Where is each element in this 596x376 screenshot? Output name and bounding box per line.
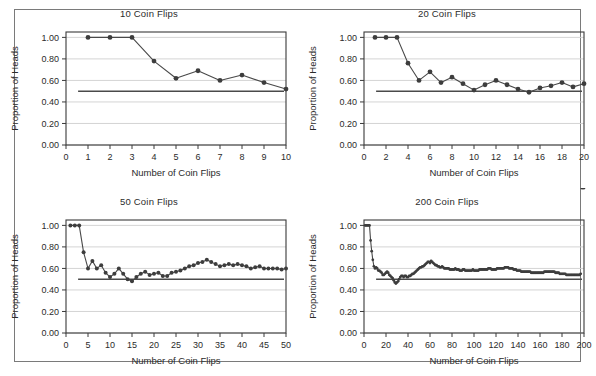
x-tick-label: 25 [171,340,181,350]
data-point-marker [240,73,245,78]
x-tick-label: 120 [488,340,503,350]
x-tick-label: 0 [361,152,366,162]
data-point-marker [86,266,90,270]
y-tick-label: 0.20 [41,307,59,317]
x-tick-label: 60 [425,340,435,350]
data-point-marker [222,263,226,267]
y-tick-label: 0.80 [41,242,59,252]
y-tick-label: 0.20 [339,307,357,317]
data-point-marker [200,260,204,264]
data-point-marker [178,269,182,273]
series-line [365,225,581,283]
data-point-marker [143,270,147,274]
data-point-marker [244,264,248,268]
y-tick-label: 1.00 [41,33,59,43]
data-point-marker [262,80,267,85]
data-point-marker [428,69,433,74]
data-point-marker [240,263,244,267]
data-point-marker [258,264,262,268]
data-point-marker [130,279,134,283]
data-point-marker [187,264,191,268]
plot-frame [364,220,584,333]
y-axis-label: Proportion of Heads [307,46,318,131]
data-point-marker [126,277,130,281]
data-point-marker [395,35,400,40]
y-tick-label: 0.80 [41,54,59,64]
y-tick-label: 0.40 [41,285,59,295]
chart-panel-0: 10 Coin Flips 0.000.200.400.600.801.0001… [0,0,298,188]
x-tick-label: 40 [237,340,247,350]
x-tick-label: 8 [239,152,244,162]
x-tick-label: 6 [195,152,200,162]
x-tick-label: 80 [447,340,457,350]
data-point-marker [262,266,266,270]
x-tick-label: 200 [576,340,591,350]
data-point-marker [108,275,112,279]
data-point-marker [196,261,200,265]
x-axis-label: Number of Coin Flips [131,355,220,366]
plot-area: 0.000.200.400.600.801.000510152025303540… [0,188,298,376]
y-tick-label: 0.00 [41,140,59,150]
data-point-marker [156,271,160,275]
data-point-marker [571,84,576,89]
chart-grid: 10 Coin Flips 0.000.200.400.600.801.0001… [0,0,596,376]
data-point-marker [121,272,125,276]
y-tick-label: 0.60 [339,264,357,274]
chart-panel-1: 20 Coin Flips 0.000.200.400.600.801.0002… [298,0,596,188]
x-tick-label: 180 [554,340,569,350]
data-point-marker [134,275,138,279]
plot-frame [66,32,286,145]
chart-svg-3: 0.000.200.400.600.801.000204060801001201… [298,188,596,376]
chart-svg-0: 0.000.200.400.600.801.00012345678910Numb… [0,0,298,188]
data-point-marker [99,263,103,267]
x-tick-label: 10 [281,152,291,162]
y-tick-label: 1.00 [41,221,59,231]
data-point-marker [148,273,152,277]
data-point-marker [549,83,554,88]
x-tick-label: 1 [85,152,90,162]
y-axis-label: Proportion of Heads [9,46,20,131]
x-tick-label: 0 [63,340,68,350]
data-point-marker [218,78,223,83]
y-tick-label: 0.80 [339,242,357,252]
data-point-marker [227,262,231,266]
x-tick-label: 5 [85,340,90,350]
x-axis-label: Number of Coin Flips [131,167,220,178]
data-point-marker [68,223,72,227]
data-point-marker [371,258,374,261]
series-line [70,225,286,281]
x-tick-label: 15 [127,340,137,350]
x-tick-label: 0 [63,152,68,162]
x-tick-label: 6 [427,152,432,162]
y-tick-label: 0.40 [339,97,357,107]
data-point-marker [209,260,213,264]
y-tick-label: 0.60 [41,76,59,86]
data-point-marker [73,223,77,227]
data-point-marker [139,272,143,276]
y-tick-label: 0.40 [41,97,59,107]
data-point-marker [108,35,113,40]
chart-panel-2: 50 Coin Flips 0.000.200.400.600.801.0005… [0,188,298,376]
x-tick-label: 20 [579,152,589,162]
x-tick-label: 20 [381,340,391,350]
x-tick-label: 140 [510,340,525,350]
data-point-marker [196,68,201,73]
x-tick-label: 18 [557,152,567,162]
data-point-marker [560,80,565,85]
data-point-marker [86,35,91,40]
x-tick-label: 35 [215,340,225,350]
y-tick-label: 0.00 [41,328,59,338]
data-point-marker [130,35,135,40]
series-line [88,37,286,89]
x-tick-label: 10 [105,340,115,350]
data-point-marker [369,239,372,242]
y-tick-label: 1.00 [339,221,357,231]
data-point-marker [516,87,521,92]
x-tick-label: 20 [149,340,159,350]
data-point-marker [384,35,389,40]
y-axis-label: Proportion of Heads [307,234,318,319]
data-point-marker [582,81,587,86]
data-point-marker [417,78,422,83]
y-tick-label: 0.40 [339,285,357,295]
x-tick-label: 30 [193,340,203,350]
